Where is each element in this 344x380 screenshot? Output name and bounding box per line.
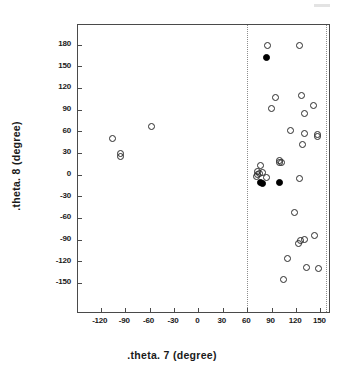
y-tick-label--120: -120: [39, 256, 71, 265]
y-tick-30: [77, 153, 82, 154]
y-tick-label-150: 150: [39, 61, 71, 70]
x-tick-0: [198, 308, 199, 313]
data-point: [295, 240, 302, 247]
data-point: [296, 175, 303, 182]
x-tick-150: [320, 308, 321, 313]
data-point: [301, 110, 308, 117]
data-point: [315, 265, 322, 272]
data-point: [303, 264, 310, 271]
x-axis-title: .theta. 7 (degree): [0, 349, 344, 361]
y-tick-label-0: 0: [39, 169, 71, 178]
y-tick-label--30: -30: [39, 191, 71, 200]
data-point: [310, 102, 317, 109]
y-tick--30: [77, 196, 82, 197]
data-point: [259, 180, 266, 187]
y-tick-label-180: 180: [39, 39, 71, 48]
data-point: [272, 94, 279, 101]
data-point: [291, 209, 298, 216]
plot-frame: [77, 24, 330, 313]
x-tick-60: [247, 308, 248, 313]
data-point: [287, 127, 294, 134]
x-tick-90: [272, 308, 273, 313]
x-tick-30: [223, 308, 224, 313]
y-tick-180: [77, 45, 82, 46]
reference-line-157: [326, 25, 327, 312]
data-point: [280, 276, 287, 283]
plot-area: [78, 25, 329, 312]
y-tick--120: [77, 261, 82, 262]
data-point: [301, 236, 308, 243]
data-point: [284, 255, 291, 262]
y-tick-label--60: -60: [39, 212, 71, 221]
y-tick--60: [77, 218, 82, 219]
data-point: [301, 130, 308, 137]
y-tick-150: [77, 66, 82, 67]
x-tick--30: [174, 308, 175, 313]
y-tick-label-30: 30: [39, 147, 71, 156]
data-point: [299, 141, 306, 148]
x-tick-label-150: 150: [299, 316, 339, 325]
y-tick-label-60: 60: [39, 126, 71, 135]
y-tick-label--90: -90: [39, 234, 71, 243]
y-tick-label-120: 120: [39, 82, 71, 91]
data-point: [117, 153, 124, 160]
data-point: [276, 179, 283, 186]
data-point: [263, 54, 270, 61]
data-point: [298, 92, 305, 99]
data-point: [314, 133, 321, 140]
data-point: [278, 159, 285, 166]
x-tick-120: [296, 308, 297, 313]
data-point: [148, 123, 155, 130]
y-tick-60: [77, 131, 82, 132]
y-tick--150: [77, 283, 82, 284]
x-tick--120: [101, 308, 102, 313]
y-tick-label--150: -150: [39, 277, 71, 286]
y-axis-title: .theta. 8 (degree): [10, 56, 22, 276]
data-point: [311, 232, 318, 239]
scan-artifact-speck: [314, 4, 330, 7]
y-tick-90: [77, 110, 82, 111]
reference-line-60: [247, 25, 248, 312]
data-point: [109, 135, 116, 142]
data-point: [268, 105, 275, 112]
y-tick--90: [77, 240, 82, 241]
y-tick-label-90: 90: [39, 104, 71, 113]
y-tick-0: [77, 175, 82, 176]
x-tick--60: [150, 308, 151, 313]
data-point: [296, 42, 303, 49]
y-tick-120: [77, 88, 82, 89]
x-tick--90: [125, 308, 126, 313]
figure-scatter-theta7-theta8: .theta. 7 (degree) .theta. 8 (degree) -1…: [0, 0, 344, 380]
data-point: [264, 42, 271, 49]
